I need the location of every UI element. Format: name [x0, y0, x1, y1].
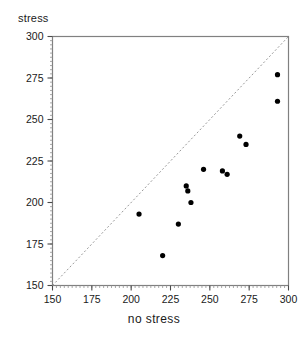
x-axis-tick-label: 225	[162, 293, 180, 305]
y-axis-tick-label: 275	[26, 72, 44, 84]
data-point	[176, 221, 181, 226]
data-point	[185, 188, 190, 193]
x-axis-tick-label: 250	[201, 293, 219, 305]
scatter-plot-figure: stress 150175200225250275300150175200225…	[0, 0, 308, 340]
data-point	[243, 142, 248, 147]
plot-canvas: 1501752002252502753001501752002252502753…	[0, 0, 308, 340]
y-axis-tick-label: 175	[26, 238, 44, 250]
data-point	[275, 72, 280, 77]
y-axis-tick-label: 250	[26, 113, 44, 125]
x-axis-tick-label: 175	[83, 293, 101, 305]
data-point	[220, 168, 225, 173]
data-point	[160, 253, 165, 258]
data-point	[188, 200, 193, 205]
data-point	[136, 212, 141, 217]
y-axis-tick-label: 225	[26, 155, 44, 167]
y-axis-tick-label: 150	[26, 279, 44, 291]
data-point	[201, 167, 206, 172]
y-axis-tick-label: 300	[26, 30, 44, 42]
y-axis-tick-label: 200	[26, 196, 44, 208]
x-axis-tick-label: 300	[280, 293, 298, 305]
data-point	[237, 134, 242, 139]
x-axis-tick-label: 150	[44, 293, 62, 305]
data-point	[225, 172, 230, 177]
x-axis-tick-label: 275	[240, 293, 258, 305]
x-axis-tick-label: 200	[122, 293, 140, 305]
data-point	[275, 99, 280, 104]
data-point	[184, 183, 189, 188]
x-axis-label: no stress	[0, 312, 308, 326]
identity-reference-line	[53, 37, 289, 286]
